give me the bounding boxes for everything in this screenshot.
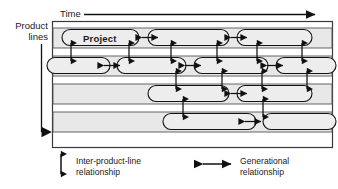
product-lines-label-2: lines [4, 32, 48, 42]
figure-canvas: Time Product lines Project Inter-product… [0, 0, 338, 189]
project-capsule [237, 86, 312, 102]
project-capsule-label: Project [83, 33, 117, 44]
project-capsule [163, 114, 256, 130]
project-capsule [276, 58, 336, 74]
legend-inter-product-line-text-1: Inter-product-line [76, 157, 141, 166]
project-capsule [263, 114, 336, 130]
project-capsule [237, 30, 312, 46]
time-axis-label: Time [60, 9, 81, 19]
legend-inter-product-line-text-2: relationship [76, 168, 120, 177]
legend-generational-text-2: relationship [240, 168, 284, 177]
legend-generational-text-1: Generational [240, 157, 289, 166]
product-lines-label-1: Product [4, 21, 48, 31]
project-capsule [47, 58, 110, 74]
project-capsule [148, 86, 229, 102]
